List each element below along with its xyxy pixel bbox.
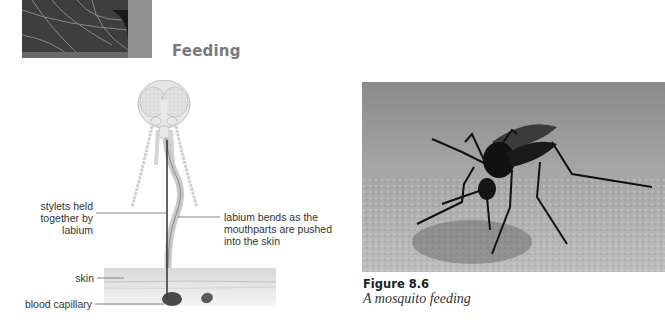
figure-caption: A mosquito feeding — [363, 291, 471, 307]
skin-layer — [104, 268, 276, 306]
mosquito-mouthparts-diagram: stylets held together by labium labium b… — [0, 80, 350, 326]
blood-capillary — [162, 292, 182, 306]
figure-number: Figure 8.6 — [363, 277, 429, 291]
leaf-photo — [22, 0, 152, 58]
mosquito-photo — [362, 82, 665, 272]
capillary-label: blood capillary — [0, 298, 92, 310]
section-heading: Feeding — [172, 42, 241, 60]
stylets-label: stylets held together by labium — [0, 200, 93, 236]
labium-label: labium bends as the mouthparts are pushe… — [224, 211, 354, 247]
skin-label: skin — [0, 272, 94, 284]
